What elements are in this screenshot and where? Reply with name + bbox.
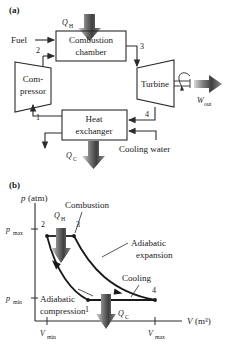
p-max-sub: max: [13, 230, 23, 236]
heat-exchanger-label-2: exchanger: [76, 126, 113, 136]
state-1-label: 1: [36, 113, 40, 122]
adiabatic-expansion-annotation-2: expansion: [136, 250, 173, 260]
combustion-chamber-label-1: Combustion: [69, 35, 114, 45]
cooling-water-pipe: [129, 131, 156, 140]
adiabatic-compression-annotation-1: Adiabatic: [40, 294, 75, 304]
adiabatic-expansion-annotation-1: Adiabatic: [131, 238, 166, 248]
heat-input-label: Q: [62, 18, 68, 27]
cooling-annotation: Cooling: [122, 273, 152, 283]
turbine-label: Turbine: [141, 79, 169, 89]
panel-a-schematic: (a) Q H Combustion chamber Fuel 2 Com- p…: [0, 0, 228, 180]
heat-output-label: Q: [66, 151, 72, 160]
state-2-label: 2: [36, 46, 40, 55]
y-axis-symbol: p: [20, 193, 26, 203]
water-outflow-pipe: [45, 133, 62, 148]
turbine-to-exchanger-pipe: [129, 107, 155, 120]
pv-heat-input-label: Q: [54, 211, 60, 220]
gas-turbine-schematic: (a) Q H Combustion chamber Fuel 2 Com- p…: [0, 0, 228, 180]
panel-b-tag: (b): [9, 180, 20, 190]
compressor-label-2: pressor: [20, 86, 46, 96]
state-3-label: 3: [140, 42, 144, 51]
chamber-to-turbine-pipe: [126, 46, 137, 66]
pv-diagram-chart: (b) p (atm) V (m³) p max p min V min V m…: [0, 176, 228, 353]
rotation-icon: [179, 73, 190, 91]
compressor-label-1: Com-: [23, 74, 44, 84]
pv-heat-output-label: Q: [118, 309, 124, 318]
panel-b-pv-diagram: (b) p (atm) V (m³) p max p min V min V m…: [0, 176, 228, 353]
p-min-symbol: p: [5, 294, 10, 303]
pv-state-2-label: 2: [41, 220, 45, 229]
pv-state-4-label: 4: [152, 286, 156, 295]
p-min-sub: min: [13, 299, 22, 305]
state-4-label: 4: [145, 110, 149, 119]
combustion-annotation: Combustion: [65, 200, 110, 210]
x-axis-symbol: V: [187, 316, 194, 326]
pv-heat-input-sub: H: [61, 216, 66, 222]
heat-exchanger-label-1: Heat: [86, 114, 103, 124]
v-min-symbol: V: [40, 329, 46, 338]
p-max-symbol: p: [5, 225, 10, 234]
heat-output-arrow: [82, 141, 105, 169]
v-max-symbol: V: [148, 329, 154, 338]
heat-output-sub: C: [73, 156, 77, 162]
fuel-label: Fuel: [11, 35, 28, 45]
pv-heat-output-sub: C: [125, 314, 129, 320]
work-output-arrow: [194, 75, 222, 93]
y-axis-unit: (atm): [28, 193, 48, 203]
v-max-sub: max: [155, 334, 165, 340]
heat-input-sub: H: [69, 23, 74, 29]
pv-state-1-label: 1: [85, 305, 89, 314]
x-axis-unit: (m³): [195, 316, 211, 326]
combustion-chamber-label-2: chamber: [76, 47, 107, 57]
expansion-leader-line: [102, 243, 128, 257]
panel-a-tag: (a): [9, 5, 20, 15]
v-min-sub: min: [47, 334, 56, 340]
work-output-sub: out: [204, 101, 212, 107]
adiabatic-compression-annotation-2: compression: [40, 306, 86, 316]
cooling-water-label: Cooling water: [119, 144, 170, 154]
